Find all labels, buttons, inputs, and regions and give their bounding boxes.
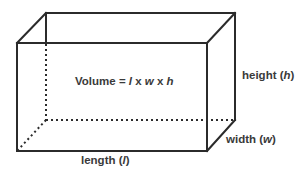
hidden-bottom-left-depth-edge <box>17 120 46 151</box>
volume-formula: Volume = l x w x h <box>75 76 174 88</box>
length-label: length (l) <box>81 155 130 167</box>
top-left-depth-edge <box>17 13 46 43</box>
length-label-close: ) <box>126 154 130 166</box>
height-label: height (h) <box>242 70 294 82</box>
prism-diagram: Volume = l x w x h height (h) width (w) … <box>0 0 306 175</box>
formula-times: x <box>154 75 167 87</box>
formula-times: x <box>132 75 145 87</box>
width-label-close: ) <box>272 133 276 145</box>
width-var: w <box>263 133 272 145</box>
formula-prefix: Volume = <box>75 75 129 87</box>
formula-var-h: h <box>167 75 174 87</box>
formula-var-w: w <box>145 75 154 87</box>
width-label-text: width ( <box>226 133 263 145</box>
prism-drawing <box>0 0 306 175</box>
height-label-text: height ( <box>242 69 284 81</box>
width-label: width (w) <box>226 134 276 146</box>
height-var: h <box>284 69 291 81</box>
height-label-close: ) <box>291 69 295 81</box>
top-right-depth-edge <box>207 13 235 43</box>
length-label-text: length ( <box>81 154 123 166</box>
